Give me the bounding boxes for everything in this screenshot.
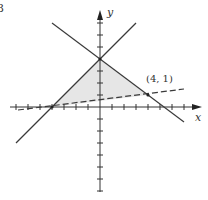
x-axis-label: x (195, 111, 202, 124)
vertex-point (98, 57, 101, 60)
vertex-point-4-1 (146, 93, 149, 96)
point-label: (4, 1) (146, 73, 173, 84)
y-axis-arrow-icon (97, 10, 103, 20)
y-axis-label: y (106, 6, 114, 19)
y-axis (97, 16, 103, 192)
x-axis-arrow-icon (192, 104, 202, 110)
corner-label: 3 (0, 2, 4, 15)
inequality-graph: 3 y x (4, 1) (0, 0, 208, 200)
vertex-point (50, 105, 53, 108)
